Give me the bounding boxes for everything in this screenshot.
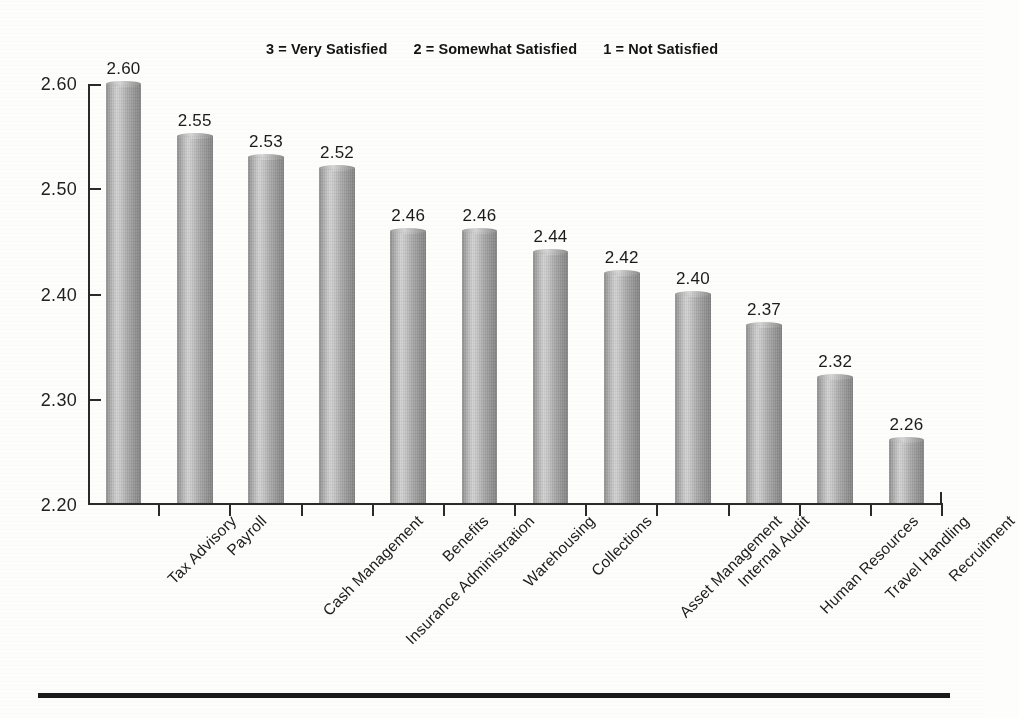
bar: 2.46 bbox=[462, 231, 498, 503]
x-axis-label-text: Collections bbox=[587, 512, 655, 580]
y-tick-label: 2.30 bbox=[41, 389, 77, 410]
bar-cylinder bbox=[817, 377, 853, 503]
bar-value-label: 2.46 bbox=[462, 206, 496, 226]
x-axis-label-group: Tax AdvisoryPayrollCash ManagementInsura… bbox=[88, 512, 942, 662]
y-tick-label: 2.40 bbox=[41, 284, 77, 305]
bar-value-label: 2.32 bbox=[818, 352, 852, 372]
bar-value-label: 2.44 bbox=[534, 227, 568, 247]
bar-value-label: 2.53 bbox=[249, 132, 283, 152]
bar: 2.40 bbox=[675, 294, 711, 504]
bar-value-label: 2.40 bbox=[676, 269, 710, 289]
bar-value-label: 2.46 bbox=[391, 206, 425, 226]
bar: 2.32 bbox=[817, 377, 853, 503]
x-axis-label: Cash Management bbox=[319, 512, 426, 619]
bar: 2.44 bbox=[533, 252, 569, 503]
legend-scale-3: 3 = Very Satisfied bbox=[266, 41, 388, 57]
bar: 2.37 bbox=[746, 325, 782, 503]
bar-group: 2.602.552.532.522.462.462.442.422.402.37… bbox=[88, 84, 942, 503]
bar-cylinder bbox=[319, 168, 355, 503]
bar-cylinder bbox=[746, 325, 782, 503]
bottom-divider bbox=[38, 693, 950, 698]
bar-value-label: 2.42 bbox=[605, 248, 639, 268]
bar-value-label: 2.60 bbox=[107, 59, 141, 79]
y-tick-label: 2.50 bbox=[41, 179, 77, 200]
bar-cylinder bbox=[604, 273, 640, 503]
legend-scale-2: 2 = Somewhat Satisfied bbox=[413, 41, 577, 57]
plot-area: 2.202.302.402.502.60 2.602.552.532.522.4… bbox=[88, 84, 942, 505]
bar-value-label: 2.52 bbox=[320, 143, 354, 163]
bar-value-label: 2.26 bbox=[889, 415, 923, 435]
bar-cylinder bbox=[462, 231, 498, 503]
bar-cylinder bbox=[675, 294, 711, 504]
bar: 2.26 bbox=[889, 440, 925, 503]
x-axis-label-text: Cash Management bbox=[319, 512, 426, 619]
y-tick-label: 2.60 bbox=[41, 74, 77, 95]
bar-cylinder bbox=[106, 84, 142, 503]
x-axis-label: Collections bbox=[587, 512, 655, 580]
bar-cylinder bbox=[177, 136, 213, 503]
bar: 2.52 bbox=[319, 168, 355, 503]
bar: 2.60 bbox=[106, 84, 142, 503]
legend-scale-1: 1 = Not Satisfied bbox=[603, 41, 718, 57]
bar: 2.55 bbox=[177, 136, 213, 503]
bar: 2.46 bbox=[390, 231, 426, 503]
bar-value-label: 2.55 bbox=[178, 111, 212, 131]
bar: 2.53 bbox=[248, 157, 284, 503]
bar-value-label: 2.37 bbox=[747, 300, 781, 320]
bar-cylinder bbox=[248, 157, 284, 503]
bar: 2.42 bbox=[604, 273, 640, 503]
y-tick-label: 2.20 bbox=[41, 495, 77, 516]
bar-cylinder bbox=[533, 252, 569, 503]
chart-subtitle-legend: 3 = Very Satisfied2 = Somewhat Satisfied… bbox=[0, 41, 984, 57]
bar-cylinder bbox=[889, 440, 925, 503]
bar-cylinder bbox=[390, 231, 426, 503]
